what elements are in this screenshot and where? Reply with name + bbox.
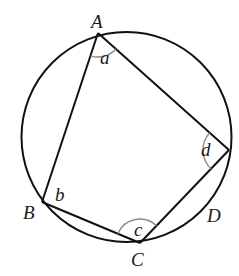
angle-label-a: a <box>100 47 110 68</box>
side-cd <box>140 150 229 243</box>
vertex-label-c: C <box>131 249 144 270</box>
side-da <box>98 33 229 150</box>
circumcircle <box>22 32 232 242</box>
side-ab <box>42 33 98 202</box>
cyclic-quadrilateral-diagram: A B C D a b c d <box>0 0 239 276</box>
vertex-label-b: B <box>23 202 35 223</box>
angle-label-b: b <box>55 184 65 205</box>
vertex-label-a: A <box>89 11 103 32</box>
vertex-label-d: D <box>206 205 221 226</box>
angle-label-d: d <box>201 139 211 160</box>
angle-arcs <box>90 49 211 234</box>
angle-label-c: c <box>134 219 143 240</box>
